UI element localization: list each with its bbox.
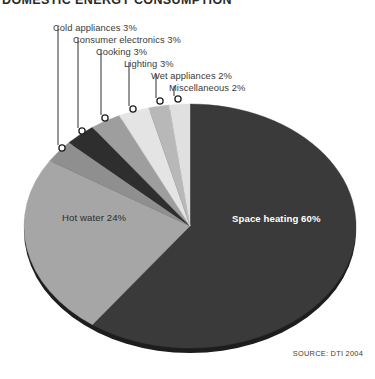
slice-label-space-heating: Space heating 60% [232, 213, 321, 224]
pie-chart-svg: Hot water 24%Space heating 60% [0, 0, 375, 379]
slice-label-hot-water: Hot water 24% [62, 212, 127, 223]
callout-label-wet-appliances: Wet appliances 2% [151, 70, 232, 81]
pie-chart-figure: DOMESTIC ENERGY CONSUMPTION Hot water 24… [0, 0, 375, 379]
callout-marker-icon [59, 145, 65, 151]
callout-marker-icon [79, 128, 85, 134]
callout-label-miscellaneous: Miscellaneous 2% [169, 82, 245, 93]
callout-marker-icon [157, 98, 163, 104]
callout-marker-icon [102, 115, 108, 121]
callout-label-lighting: Lighting 3% [124, 58, 174, 69]
source-note: SOURCE: DTI 2004 [293, 349, 363, 358]
callout-label-cooking: Cooking 3% [96, 46, 147, 57]
callout-marker-icon [130, 106, 136, 112]
callout-label-consumer-electronics: Consumer electronics 3% [73, 34, 181, 45]
callout-marker-icon [175, 96, 181, 102]
callout-label-cold-appliances: Cold appliances 3% [53, 22, 137, 33]
pie-slice-group [24, 104, 356, 348]
